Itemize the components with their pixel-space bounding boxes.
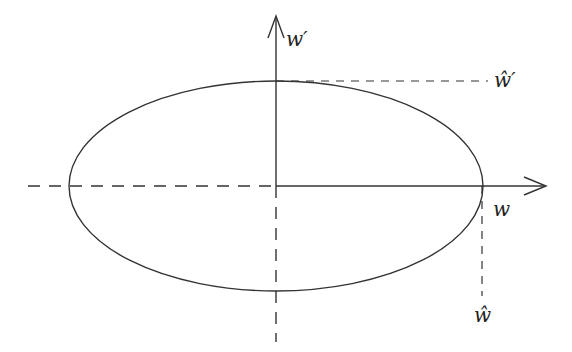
vertical-axis-label: w′ [286, 27, 308, 51]
horizontal-axis-label: w [493, 197, 510, 221]
right-intercept-label: ŵ [474, 303, 491, 327]
top-intercept-label: ŵ′ [494, 68, 516, 92]
ellipse-diagram: w′ w ŵ′ ŵ [0, 0, 572, 352]
